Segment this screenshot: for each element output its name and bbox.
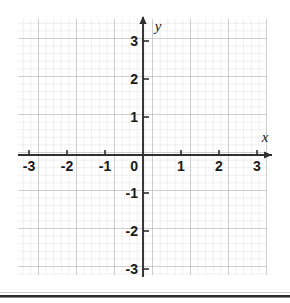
y-tick-label: -3 [126, 261, 139, 277]
x-tick-label: -2 [61, 158, 74, 174]
y-tick-label: 1 [130, 109, 138, 125]
y-tick-label: -1 [126, 185, 139, 201]
origin-label: 0 [130, 158, 138, 174]
coordinate-plane-figure: -3 -2 -1 1 2 3 3 2 1 -1 -2 -3 0 x y [0, 0, 290, 303]
page-edge-light [0, 292, 290, 293]
coordinate-grid-svg: -3 -2 -1 1 2 3 3 2 1 -1 -2 -3 0 x y [0, 0, 290, 303]
y-tick-label: -2 [126, 223, 139, 239]
x-tick-label: 2 [215, 158, 223, 174]
y-tick-label: 2 [130, 71, 138, 87]
y-axis-label: y [153, 18, 162, 34]
x-tick-label: 1 [177, 158, 185, 174]
x-axis-label: x [261, 129, 269, 145]
x-axis-arrowhead [264, 151, 272, 158]
x-tick-label: -1 [99, 158, 112, 174]
x-tick-label: 3 [253, 158, 261, 174]
y-tick-label: 3 [130, 33, 138, 49]
x-tick-label: -3 [23, 158, 36, 174]
page-edge-shadow [0, 297, 290, 298]
